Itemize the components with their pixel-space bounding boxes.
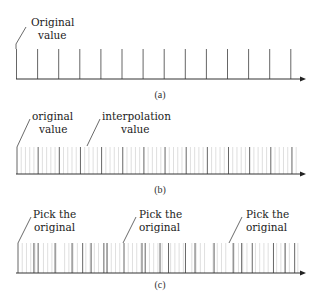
interpolation-leader-line xyxy=(87,119,100,146)
pick-leader-line-1 xyxy=(18,217,31,243)
panel-caption-a: (a) xyxy=(154,89,165,101)
axis-arrow-icon xyxy=(300,172,306,177)
axis-arrow-icon xyxy=(300,77,306,82)
pick-label-1-line2: original xyxy=(34,221,76,233)
resampling-diagram: Original value (a) original value interp… xyxy=(0,0,318,300)
original-value-label: original xyxy=(32,110,74,122)
panel-caption-b: (b) xyxy=(154,184,166,196)
panel-b: original value interpolation value (b) xyxy=(16,110,306,196)
pick-label-2: Pick the xyxy=(139,208,182,220)
label-leader-line xyxy=(16,27,26,49)
pick-label-2-line2: original xyxy=(139,221,181,233)
original-value-label-line2: value xyxy=(37,29,67,41)
pick-label-3-line2: original xyxy=(246,221,288,233)
panel-a: Original value (a) xyxy=(16,16,306,101)
pick-label-3: Pick the xyxy=(246,208,289,220)
label-leader-line xyxy=(17,119,30,147)
pick-label-1: Pick the xyxy=(33,208,76,220)
interpolation-value-label-line2: value xyxy=(120,123,150,135)
panel-caption-c: (c) xyxy=(154,279,165,291)
interpolation-value-label: interpolation xyxy=(102,110,171,122)
pick-leader-line-3 xyxy=(229,217,242,243)
original-value-label: Original xyxy=(31,16,75,28)
pick-leader-line-2 xyxy=(123,217,136,243)
original-value-label-line2: value xyxy=(38,123,68,135)
panel-c: Pick the original Pick the original Pick… xyxy=(16,208,306,291)
axis-arrow-icon xyxy=(300,271,306,276)
